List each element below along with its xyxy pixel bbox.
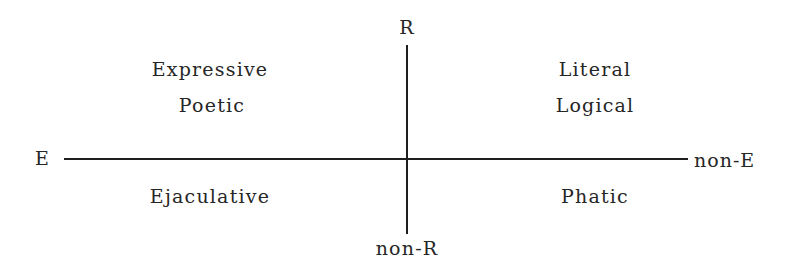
axis-label-r: R xyxy=(399,16,415,38)
axis-label-non-r: non-R xyxy=(376,237,439,259)
vertical-axis-r xyxy=(406,45,408,234)
quadrant-top-right-line-1: Literal xyxy=(559,58,631,80)
axis-label-e: E xyxy=(35,147,50,169)
quadrant-top-left-line-2: Poetic xyxy=(179,94,245,116)
quadrant-top-left-line-1: Expressive xyxy=(152,58,269,80)
horizontal-axis-e xyxy=(64,158,688,160)
quadrant-bottom-left-line-1: Ejaculative xyxy=(150,185,270,207)
axis-label-non-e: non-E xyxy=(694,149,755,171)
quadrant-bottom-right-line-1: Phatic xyxy=(561,185,629,207)
quadrant-top-right-line-2: Logical xyxy=(556,94,635,116)
